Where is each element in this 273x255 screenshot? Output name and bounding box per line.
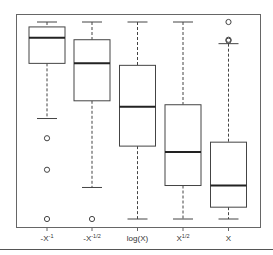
outlier-point: [44, 167, 49, 172]
outlier-point: [44, 216, 49, 221]
iqr-box: [211, 142, 247, 207]
bottom-divider: [0, 249, 273, 250]
iqr-box: [165, 105, 201, 186]
x-tick-label: -X-1: [41, 233, 54, 243]
outlier-point: [226, 19, 231, 24]
x-tick-label: X1/2: [177, 233, 190, 243]
iqr-box: [74, 40, 110, 101]
box-2: [74, 22, 110, 222]
box-5: [211, 19, 247, 219]
box-1: [29, 22, 65, 222]
outlier-point: [44, 136, 49, 141]
iqr-box: [29, 27, 65, 63]
boxes-group: [29, 19, 247, 221]
x-tick-label: -X-1/2: [83, 233, 100, 243]
x-tick-label: log(X): [127, 234, 149, 243]
box-3: [120, 22, 156, 219]
box-plot-chart: -X-1-X-1/2log(X)X1/2X: [0, 0, 273, 255]
outlier-point: [89, 216, 94, 221]
x-tick-label: X: [226, 234, 232, 243]
box-4: [165, 22, 201, 219]
x-axis: -X-1-X-1/2log(X)X1/2X: [41, 228, 232, 244]
